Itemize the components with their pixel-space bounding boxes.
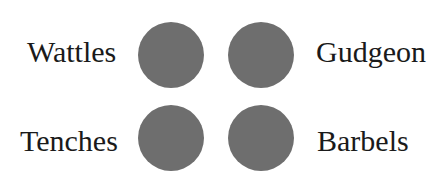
label-tenches: Tenches <box>20 126 118 156</box>
circle-barbels <box>228 105 294 171</box>
circle-tenches <box>138 105 204 171</box>
circle-wattles <box>138 22 204 88</box>
label-gudgeon: Gudgeon <box>316 37 426 67</box>
circle-gudgeon <box>228 22 294 88</box>
label-wattles: Wattles <box>27 37 116 67</box>
label-barbels: Barbels <box>317 126 409 156</box>
